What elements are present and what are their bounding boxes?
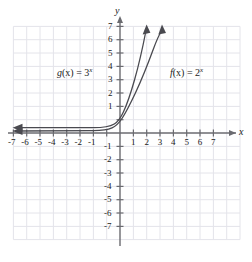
y-tick-label--3: -3 [104,169,112,178]
y-tick-label-4: 4 [108,62,113,71]
y-tick-label--1: -1 [104,142,112,151]
curve-label-f: f(x) = 2x [170,68,203,78]
axis-lines [8,18,236,246]
x-tick-label--1: -1 [88,138,96,147]
y-tick-label--5: -5 [104,195,112,204]
x-tick-label-2: 2 [144,138,149,147]
function-curves [18,32,162,132]
x-tick-label-7: 7 [211,138,216,147]
x-tick-label-6: 6 [198,138,203,147]
y-tick-label-7: 7 [108,22,113,31]
x-tick-label--3: -3 [61,138,69,147]
y-tick-label--4: -4 [104,182,112,191]
x-tick-label--2: -2 [75,138,83,147]
tick-marks [13,26,213,226]
x-tick-label--5: -5 [35,138,43,147]
curve-label-f-arg: (x) = 2 [173,67,200,78]
x-tick-label--6: -6 [21,138,29,147]
x-axis-name: x [239,127,243,137]
x-axis-arrowhead [229,130,236,136]
y-tick-label--6: -6 [104,209,112,218]
curve-f-2-to-the-x [18,32,162,132]
x-tick-label--7: -7 [8,138,16,147]
curve-label-g-arg: (x) = 3 [62,67,89,78]
graph-canvas [0,0,252,262]
y-tick-label-2: 2 [108,89,113,98]
exponential-functions-graph: -7 -6 -5 -4 -3 -2 -1 1 2 3 4 5 6 7 7 6 5… [0,0,252,262]
y-tick-label-5: 5 [108,49,113,58]
x-tick-label-1: 1 [131,138,136,147]
y-tick-label-6: 6 [108,35,113,44]
curve-label-g-exponent: x [89,66,92,74]
y-tick-label-1: 1 [108,102,113,111]
curve-label-g: g(x) = 3x [57,68,92,78]
y-tick-label-3: 3 [108,75,113,84]
y-axis-arrowhead [117,16,123,23]
x-tick-label--4: -4 [48,138,56,147]
x-tick-label-4: 4 [171,138,176,147]
x-tick-label-5: 5 [184,138,189,147]
x-tick-label-3: 3 [158,138,163,147]
y-tick-label--2: -2 [104,155,112,164]
curve-label-f-exponent: x [200,66,203,74]
y-tick-label--7: -7 [104,222,112,231]
y-axis-name: y [115,6,119,16]
